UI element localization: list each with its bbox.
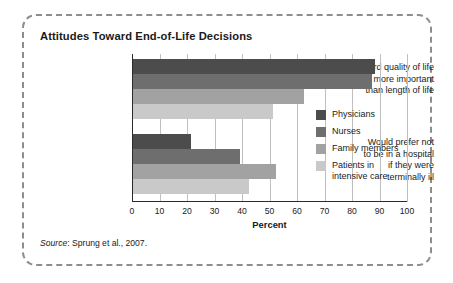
legend-label: Family members [332, 143, 399, 154]
x-tick-label: 70 [320, 206, 330, 216]
legend-swatch-icon [316, 144, 326, 154]
legend-item[interactable]: Patients inintensive care [316, 160, 428, 183]
x-tick-label: 90 [375, 206, 385, 216]
legend-label-line: Family members [332, 143, 399, 154]
legend-label: Patients inintensive care [332, 160, 388, 183]
legend-item[interactable]: Family members [316, 143, 428, 154]
bar [133, 89, 304, 104]
legend-swatch-icon [316, 127, 326, 137]
bar [133, 104, 273, 119]
legend-label-line: intensive care [332, 171, 388, 182]
x-tick-label: 60 [292, 206, 302, 216]
legend-label-line: Patients in [332, 160, 388, 171]
legend-swatch-icon [316, 110, 326, 120]
source-note: Source: Sprung et al., 2007. [40, 238, 147, 248]
bar [133, 179, 249, 194]
legend-label: Physicians [332, 109, 375, 120]
legend-label-line: Physicians [332, 109, 375, 120]
legend-label-line: Nurses [332, 126, 361, 137]
x-tick-label: 100 [400, 206, 414, 216]
figure-frame: Attitudes Toward End-of-Life Decisions R… [22, 14, 432, 266]
bar [133, 149, 240, 164]
x-axis-line [132, 201, 407, 202]
bar [133, 59, 375, 74]
x-tick-label: 50 [265, 206, 275, 216]
legend-swatch-icon [316, 161, 326, 171]
x-tick-label: 20 [182, 206, 192, 216]
y-axis-line [132, 54, 133, 202]
chart-container: Regard quality of life as more important… [24, 16, 434, 268]
bar [133, 164, 276, 179]
x-tick-label: 0 [130, 206, 135, 216]
x-tick-label: 80 [347, 206, 357, 216]
bar [133, 74, 372, 89]
source-label: Source [40, 238, 67, 248]
source-text: : Sprung et al., 2007. [67, 238, 147, 248]
bar [133, 134, 191, 149]
legend-label: Nurses [332, 126, 361, 137]
legend: PhysiciansNursesFamily membersPatients i… [316, 109, 428, 188]
x-axis-title: Percent [132, 219, 407, 230]
legend-item[interactable]: Nurses [316, 126, 428, 137]
legend-item[interactable]: Physicians [316, 109, 428, 120]
x-tick-label: 40 [237, 206, 247, 216]
x-tick-label: 30 [210, 206, 220, 216]
x-tick-label: 10 [155, 206, 165, 216]
